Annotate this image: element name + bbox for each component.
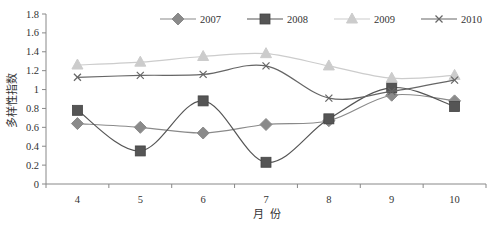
x-tick-label: 5 bbox=[138, 194, 143, 205]
diamond-marker-icon bbox=[172, 13, 184, 25]
legend-item-2007: 2007 bbox=[160, 13, 221, 25]
legend-item-2009: 2009 bbox=[334, 13, 395, 25]
series-layer bbox=[71, 48, 460, 168]
x-tick-label: 10 bbox=[449, 194, 460, 205]
y-tick-label: 0.8 bbox=[26, 103, 39, 114]
y-axis: 00.20.40.60.811.21.41.61.8 bbox=[26, 9, 46, 190]
legend-item-2008: 2008 bbox=[247, 14, 308, 25]
diamond-marker-icon bbox=[71, 118, 83, 130]
y-tick-label: 0.6 bbox=[26, 122, 39, 133]
y-tick-label: 1.6 bbox=[26, 27, 39, 38]
x-axis-title: 月 份 bbox=[253, 208, 282, 221]
legend-label: 2009 bbox=[374, 14, 395, 25]
square-marker-icon bbox=[261, 157, 271, 167]
triangle-marker-icon bbox=[72, 59, 83, 69]
diamond-marker-icon bbox=[260, 119, 272, 131]
legend-item-2010: 2010 bbox=[421, 14, 482, 25]
x-tick-label: 7 bbox=[263, 194, 268, 205]
triangle-marker-icon bbox=[135, 56, 146, 66]
diamond-marker-icon bbox=[197, 127, 209, 139]
x-axis: 45678910 bbox=[46, 184, 486, 205]
diamond-marker-icon bbox=[134, 121, 146, 133]
series-2007 bbox=[71, 89, 460, 139]
triangle-marker-icon bbox=[198, 51, 209, 61]
square-marker-icon bbox=[135, 146, 145, 156]
x-tick-label: 9 bbox=[389, 194, 394, 205]
y-tick-label: 0.4 bbox=[26, 141, 40, 152]
x-tick-label: 4 bbox=[75, 194, 81, 205]
legend-label: 2010 bbox=[461, 14, 482, 25]
y-tick-label: 0 bbox=[34, 179, 39, 190]
y-axis-title: 多样性指数 bbox=[5, 73, 19, 128]
triangle-marker-icon bbox=[386, 72, 397, 82]
square-marker-icon bbox=[198, 96, 208, 106]
line-chart: 00.20.40.60.811.21.41.61.8 45678910 2007… bbox=[0, 0, 495, 227]
y-tick-label: 1.2 bbox=[26, 65, 39, 76]
square-marker-icon bbox=[324, 114, 334, 124]
square-marker-icon bbox=[260, 14, 270, 24]
legend-label: 2007 bbox=[200, 14, 221, 25]
y-tick-label: 1.4 bbox=[26, 46, 40, 57]
y-tick-label: 1 bbox=[34, 84, 39, 95]
triangle-marker-icon bbox=[347, 13, 358, 23]
triangle-marker-icon bbox=[449, 69, 460, 79]
x-tick-label: 8 bbox=[326, 194, 331, 205]
series-2010 bbox=[74, 62, 458, 101]
legend-label: 2008 bbox=[287, 14, 308, 25]
square-marker-icon bbox=[72, 105, 82, 115]
y-tick-label: 0.2 bbox=[26, 160, 39, 171]
series-2009 bbox=[72, 48, 460, 83]
square-marker-icon bbox=[450, 102, 460, 112]
legend: 2007200820092010 bbox=[160, 13, 482, 25]
y-tick-label: 1.8 bbox=[26, 9, 39, 20]
triangle-marker-icon bbox=[261, 48, 272, 58]
x-tick-label: 6 bbox=[201, 194, 206, 205]
